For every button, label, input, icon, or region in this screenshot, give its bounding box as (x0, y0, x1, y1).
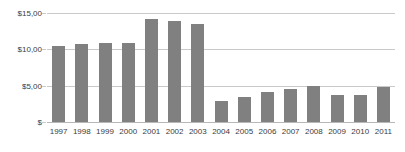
bar-slot (349, 8, 372, 126)
bar[interactable] (238, 97, 251, 122)
bar-chart: $15,00 $10,00 $5,00 $ 199719981999200020… (0, 0, 405, 152)
bar-slot (325, 8, 348, 126)
bar-slot (47, 8, 70, 126)
x-axis-label: 2003 (186, 127, 209, 136)
y-axis-label-15: $15,00 (18, 9, 42, 18)
bar-slot (279, 8, 302, 126)
x-axis-label: 2008 (302, 127, 325, 136)
bar[interactable] (75, 44, 88, 122)
bar-slot (140, 8, 163, 126)
x-axis-label: 2010 (349, 127, 372, 136)
bar[interactable] (191, 24, 204, 122)
x-axis-label: 2000 (117, 127, 140, 136)
bar-slot (233, 8, 256, 126)
bar-slot (256, 8, 279, 126)
x-axis-label: 2007 (279, 127, 302, 136)
x-axis-label: 2004 (209, 127, 232, 136)
bar-slot (372, 8, 395, 126)
bar[interactable] (215, 101, 228, 122)
y-axis: $15,00 $10,00 $5,00 $ (0, 0, 46, 152)
x-axis-label: 2011 (372, 127, 395, 136)
bar-slot (302, 8, 325, 126)
bar[interactable] (122, 43, 135, 122)
y-axis-label-10: $10,00 (18, 45, 42, 54)
y-axis-label-5: $5,00 (22, 81, 42, 90)
x-axis-label: 2005 (233, 127, 256, 136)
x-axis-label: 2006 (256, 127, 279, 136)
bar[interactable] (99, 43, 112, 122)
bar[interactable] (284, 89, 297, 122)
bar-slot (209, 8, 232, 126)
bar[interactable] (331, 95, 344, 122)
y-axis-tick-5 (42, 86, 46, 87)
bar-slot (186, 8, 209, 126)
bar[interactable] (168, 21, 181, 122)
y-axis-tick-0 (42, 122, 46, 123)
bar-slot (93, 8, 116, 126)
bar[interactable] (377, 87, 390, 122)
x-axis-label: 1999 (93, 127, 116, 136)
bar[interactable] (307, 86, 320, 122)
x-axis-label: 2002 (163, 127, 186, 136)
x-axis-label: 1997 (47, 127, 70, 136)
bar[interactable] (354, 95, 367, 122)
y-axis-tick-15 (42, 13, 46, 14)
bar-slot (70, 8, 93, 126)
x-axis-label: 1998 (70, 127, 93, 136)
x-axis-label: 2009 (325, 127, 348, 136)
bar-series (47, 8, 395, 126)
x-axis: 1997199819992000200120022003200420052006… (47, 127, 395, 136)
plot-area (47, 8, 395, 126)
x-axis-label: 2001 (140, 127, 163, 136)
bar-slot (163, 8, 186, 126)
bar[interactable] (52, 46, 65, 122)
y-axis-tick-10 (42, 49, 46, 50)
bar-slot (117, 8, 140, 126)
bar[interactable] (261, 92, 274, 122)
bar[interactable] (145, 19, 158, 122)
